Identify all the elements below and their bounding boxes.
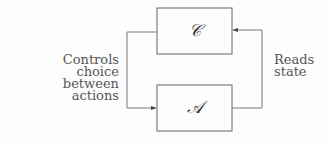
reads-label-line2: state (274, 66, 314, 78)
controls-label-line2: between actions (19, 78, 119, 102)
reads-arrow (232, 30, 262, 108)
controls-label-line1: Controls choice (19, 54, 119, 78)
controls-arrow (127, 32, 157, 108)
controller-label: 𝒞 (157, 20, 233, 40)
reads-label: Reads state (274, 54, 314, 78)
controls-label: Controls choice between actions (19, 54, 119, 102)
agent-label: 𝒜 (157, 97, 233, 117)
